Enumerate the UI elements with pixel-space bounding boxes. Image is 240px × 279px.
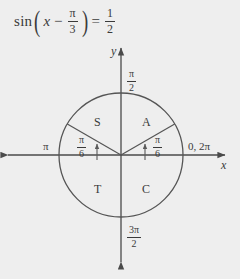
angle-label-left: π 6 <box>75 135 88 159</box>
x-axis-label: x <box>221 158 226 173</box>
top-axis-angle-label: π 2 <box>125 69 138 93</box>
angle-right-numerator: π <box>153 135 162 146</box>
quadrant-label-c: C <box>142 182 150 197</box>
top-label-denominator: 2 <box>127 83 136 94</box>
quadrant-label-s: S <box>94 115 101 130</box>
angle-label-right: π 6 <box>151 135 164 159</box>
angle-left-numerator: π <box>77 135 86 146</box>
angle-right-denominator: 6 <box>153 149 162 160</box>
top-label-numerator: π <box>127 69 136 80</box>
bottom-label-denominator: 2 <box>130 239 139 250</box>
right-axis-angle-label: 0, 2π <box>188 140 210 152</box>
quadrant-label-t: T <box>94 182 101 197</box>
quadrant-label-a: A <box>142 115 151 130</box>
left-axis-angle-label: π <box>43 140 49 152</box>
angle-left-denominator: 6 <box>77 149 86 160</box>
bottom-label-numerator: 3π <box>127 225 141 236</box>
bottom-axis-angle-label: 3π 2 <box>125 225 143 249</box>
y-axis-label: y <box>111 44 116 59</box>
